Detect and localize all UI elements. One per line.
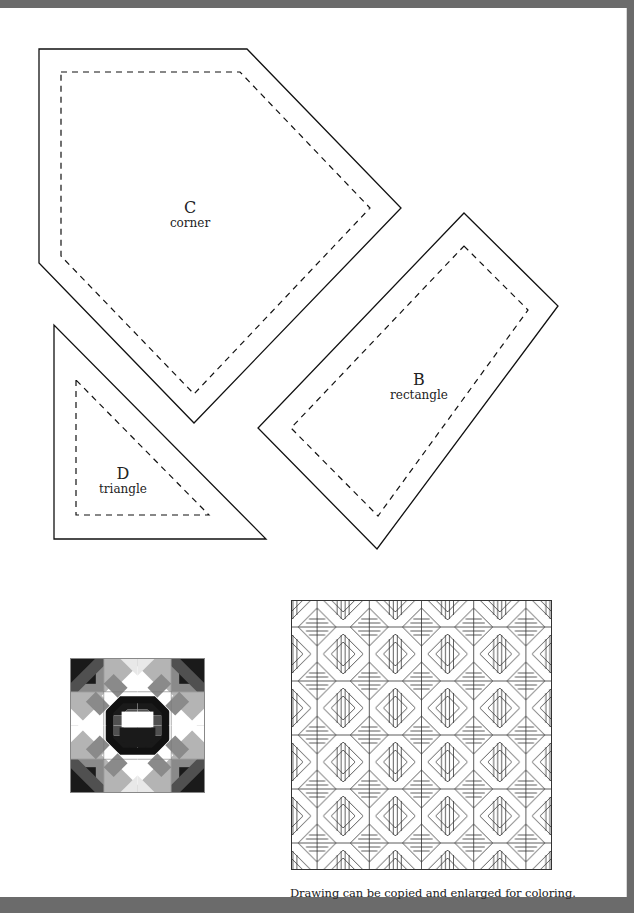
template-d-triangle [54, 325, 266, 539]
template-b-name: rectangle [390, 389, 448, 401]
template-d-label: D triangle [99, 466, 147, 495]
template-b-letter: B [390, 372, 448, 388]
template-c-label: C corner [170, 200, 210, 229]
caption: Drawing can be copied and enlarged for c… [290, 886, 576, 900]
pattern-page: C corner B rectangle D triangle [0, 8, 627, 897]
template-b-label: B rectangle [390, 372, 448, 401]
color-block-illustration [70, 658, 205, 793]
line-drawing-illustration [291, 600, 552, 870]
template-c-corner [39, 49, 401, 423]
template-c-name: corner [170, 217, 210, 229]
template-d-name: triangle [99, 483, 147, 495]
template-c-letter: C [170, 200, 210, 216]
template-d-letter: D [99, 466, 147, 482]
